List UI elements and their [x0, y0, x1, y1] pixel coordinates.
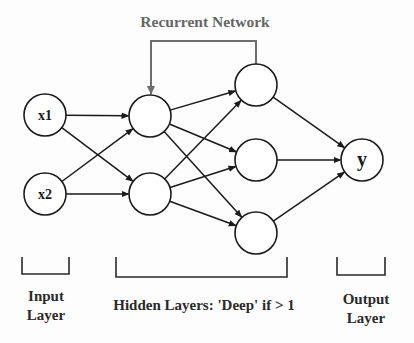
neuron-x1: x1 — [24, 94, 66, 136]
diagram-svg: Recurrent Network x1x2y Input Layer Hidd… — [0, 0, 414, 343]
neuron-h1b — [129, 173, 171, 215]
neuron-circle — [129, 95, 171, 137]
edge-h2c-y — [273, 172, 344, 221]
connections — [62, 91, 345, 226]
neuron-h2b — [235, 139, 277, 181]
output-layer-label-line2: Layer — [347, 310, 386, 326]
hidden-layers-label: Hidden Layers: 'Deep' if > 1 — [113, 297, 294, 313]
input-layer-bracket — [22, 257, 69, 274]
neuron-h2a — [235, 64, 277, 106]
neural-network-diagram: Recurrent Network x1x2y Input Layer Hidd… — [0, 0, 414, 343]
neuron-circle — [129, 173, 171, 215]
edge-h1b-h2b — [170, 167, 236, 188]
neuron-h2c — [235, 212, 277, 254]
neuron-label: x1 — [38, 108, 52, 123]
input-layer-label-line2: Layer — [27, 307, 66, 323]
neuron-x2: x2 — [24, 173, 66, 215]
hidden-layers-bracket — [116, 257, 287, 277]
neuron-circle — [235, 212, 277, 254]
neuron-label: y — [357, 148, 367, 171]
input-layer-label-line1: Input — [28, 288, 64, 304]
output-layer-label-line1: Output — [343, 291, 390, 307]
edge-h2a-y — [273, 97, 344, 147]
neuron-circle — [235, 139, 277, 181]
neurons: x1x2y — [24, 64, 383, 254]
neuron-y: y — [341, 139, 383, 181]
neuron-h1a — [129, 95, 171, 137]
edge-x1-h1a — [66, 115, 129, 116]
recurrent-network-title: Recurrent Network — [140, 13, 270, 30]
edge-h1a-h2a — [170, 91, 235, 110]
output-layer-bracket — [337, 257, 385, 275]
edge-h1b-h2c — [170, 201, 236, 225]
edge-h1b-h2a — [165, 100, 241, 179]
neuron-label: x2 — [38, 187, 52, 202]
neuron-circle — [235, 64, 277, 106]
